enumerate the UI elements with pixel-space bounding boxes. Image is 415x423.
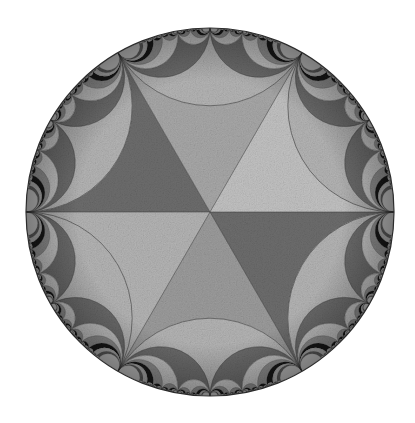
- artwork-canvas: Hyperbolic Tiling in the Poincare Disk C…: [0, 0, 415, 423]
- hyperbolic-tiling-figure: [0, 0, 415, 423]
- edge-vignette: [26, 28, 394, 396]
- disk-contents: [26, 28, 394, 396]
